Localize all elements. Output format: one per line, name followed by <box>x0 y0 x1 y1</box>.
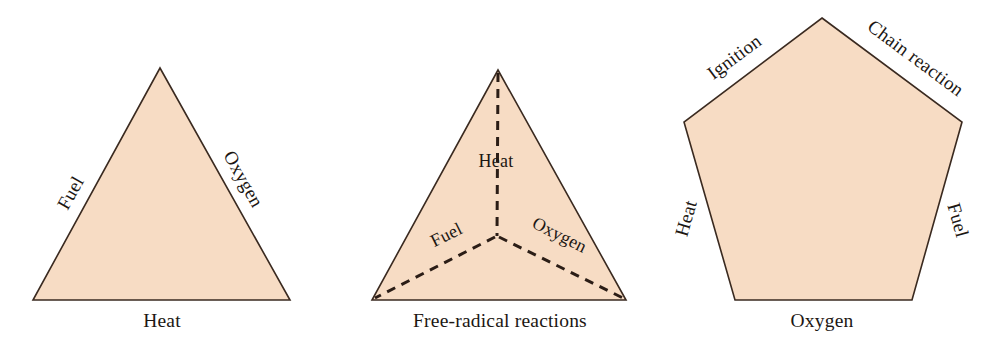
label-fuel-pent-group: Fuel <box>943 201 973 240</box>
diagram-fire-tetrahedron: Heat Fuel Oxygen Free-radical reactions <box>372 70 626 331</box>
diagram-fire-pentagon: Ignition Chain reaction Heat Fuel Oxygen <box>671 15 974 331</box>
tetrahedron-label-heat: Heat <box>479 151 514 171</box>
label-fuel-group: Fuel <box>53 173 88 213</box>
label-heat-pent-group: Heat <box>671 197 701 239</box>
figure-root: Fuel Oxygen Heat Heat Fuel <box>0 0 1000 344</box>
pentagon-label-heat: Heat <box>671 197 701 239</box>
triangle-label-heat: Heat <box>143 310 181 331</box>
diagram-fire-triangle: Fuel Oxygen Heat <box>33 68 290 331</box>
triangle-label-fuel: Fuel <box>53 173 88 213</box>
pentagon-label-oxygen: Oxygen <box>791 310 854 331</box>
tetrahedron-label-base: Free-radical reactions <box>413 310 587 331</box>
diagram-canvas: Fuel Oxygen Heat Heat Fuel <box>0 0 1000 344</box>
pentagon-label-fuel: Fuel <box>943 201 973 240</box>
tetrahedron-shape <box>372 70 626 300</box>
